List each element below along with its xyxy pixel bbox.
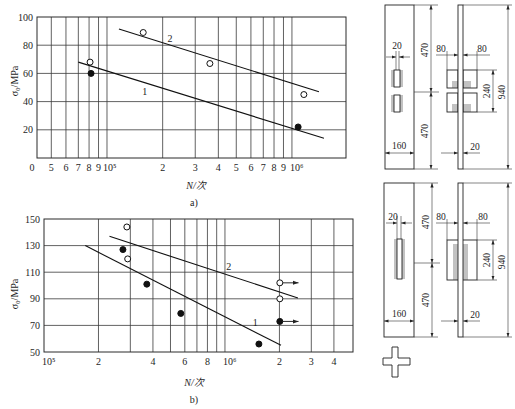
dim-half-lower: 470 [421, 293, 431, 308]
data-point-filled [88, 70, 94, 76]
x-tick-label: 4 [216, 162, 221, 173]
front-view: 20 160 470 470 [384, 183, 440, 337]
y-tick-label: 80 [23, 40, 33, 51]
dim-attach-left: 80 [436, 212, 446, 222]
x-tick-label: 6 [63, 162, 68, 173]
fit-line-label: 2 [226, 261, 231, 272]
x-tick-label: 4 [150, 356, 155, 367]
fit-line-label: 1 [253, 317, 258, 328]
dim-plate-width: 160 [392, 309, 407, 319]
dim-attach-right: 80 [477, 44, 487, 54]
specimen-drawing-upper: 20 160 470 470 [385, 5, 512, 169]
weld-hatch [463, 244, 468, 280]
y-tick-label: 150 [25, 214, 40, 225]
front-view: 20 160 470 470 [385, 5, 439, 169]
data-point-open [277, 280, 283, 286]
dim-half-lower: 470 [420, 124, 430, 139]
y-axis-label: σ₀/MPa [9, 65, 20, 96]
x-tick-label: 10⁵ [103, 162, 117, 173]
dim-thickness: 20 [470, 310, 480, 320]
y-tick-label: 110 [25, 267, 40, 278]
plot-frame [44, 219, 353, 352]
weld-hatch [453, 244, 458, 280]
fit-line-2 [119, 29, 319, 92]
weld-slot [397, 239, 402, 279]
x-axis-label: N/次 [183, 377, 204, 388]
chart-b: 10⁵246810⁶234507090110130150σ₀/MPaN/次b)2… [9, 214, 354, 407]
origin-label: 0 [30, 162, 35, 173]
data-point-filled [144, 281, 150, 287]
specimen-drawing-lower: 20 160 470 470 80 80 [383, 183, 512, 377]
dim-half-upper: 470 [421, 215, 431, 230]
data-point-open [87, 59, 93, 65]
figure: 5678910⁵2345678910⁶020406080100σ₀/MPaN/次… [0, 0, 515, 409]
x-tick-label: 10⁵ [42, 356, 56, 367]
x-tick-label: 7 [76, 162, 81, 173]
gridlines [44, 219, 353, 352]
dim-weld-gap: 20 [392, 41, 402, 51]
data-point-filled [295, 124, 301, 130]
data-point-open [277, 296, 283, 302]
main-plate-edge [458, 5, 463, 169]
data-point-open [140, 30, 146, 36]
data-point-filled [256, 341, 262, 347]
x-tick-label: 8 [205, 356, 210, 367]
panel-label: a) [190, 197, 198, 209]
weld-hatch [463, 104, 471, 112]
y-tick-label: 130 [25, 240, 40, 251]
main-plate-edge [458, 183, 463, 337]
x-tick-label: 7 [261, 162, 266, 173]
gridlines [37, 17, 346, 158]
chart-a: 5678910⁵2345678910⁶020406080100σ₀/MPaN/次… [9, 12, 347, 210]
data-point-open [124, 224, 130, 230]
x-tick-label: 2 [277, 356, 282, 367]
y-tick-label: 20 [23, 124, 33, 135]
x-tick-label: 5 [234, 162, 239, 173]
y-tick-label: 90 [30, 293, 40, 304]
plot-frame [37, 17, 346, 158]
dim-attach-length: 240 [482, 253, 492, 268]
x-tick-label: 6 [182, 356, 187, 367]
x-tick-label: 8 [272, 162, 277, 173]
data-point-filled [120, 247, 126, 253]
charts: 5678910⁵2345678910⁶020406080100σ₀/MPaN/次… [9, 12, 354, 407]
data-point-filled [178, 310, 184, 316]
weld-hatch [463, 81, 471, 88]
fit-line-label: 1 [142, 86, 147, 97]
dim-attach-right: 80 [478, 212, 488, 222]
y-axis-label: σ₀/MPa [9, 278, 20, 309]
x-axis-label: N/次 [185, 180, 206, 191]
data-point-filled [277, 318, 283, 324]
weld-hatch [452, 104, 458, 112]
data-point-open [301, 92, 307, 98]
dim-plate-width: 160 [392, 141, 407, 151]
x-tick-label: 3 [193, 162, 198, 173]
weld-slot [394, 95, 400, 112]
x-tick-label: 9 [96, 162, 101, 173]
x-tick-label: 2 [96, 356, 101, 367]
dim-weld-gap: 20 [388, 212, 398, 222]
x-tick-label: 5 [49, 162, 54, 173]
y-tick-label: 50 [30, 347, 40, 358]
side-view: 80 80 240 940 20 [436, 5, 512, 169]
y-tick-label: 40 [23, 96, 33, 107]
y-tick-label: 60 [23, 68, 33, 79]
dim-attach-length: 240 [482, 84, 492, 99]
cross-section-icon [383, 347, 410, 377]
y-tick-label: 100 [18, 12, 33, 23]
x-tick-label: 8 [87, 162, 92, 173]
x-tick-label: 3 [309, 356, 314, 367]
dim-total-length: 940 [497, 255, 507, 270]
x-tick-label: 2 [160, 162, 165, 173]
x-tick-label: 9 [281, 162, 286, 173]
weld-slot [394, 70, 400, 87]
dim-attach-left: 80 [436, 44, 446, 54]
x-tick-label: 10⁶ [290, 162, 304, 173]
panel-label: b) [190, 394, 198, 406]
data-point-open [207, 61, 213, 67]
dim-total-length: 940 [497, 85, 507, 100]
data-point-open [125, 256, 131, 262]
side-view: 80 80 240 940 20 [436, 183, 512, 337]
dim-thickness: 20 [470, 142, 480, 152]
y-tick-label: 70 [30, 320, 40, 331]
